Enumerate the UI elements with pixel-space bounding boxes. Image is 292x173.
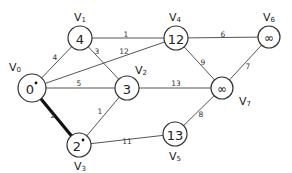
visited-marker-icon [82, 139, 85, 142]
vertex-label-v0: V0 [9, 61, 21, 75]
node-distance-value: ∞ [264, 31, 274, 45]
vertex-label-v2: V2 [135, 64, 147, 78]
vertex-label-v1: V1 [74, 11, 86, 25]
vertex-labels-layer: V0V1V2V3V4V5V6V7 [9, 11, 276, 173]
node-distance-value: 0 [26, 82, 34, 97]
vertex-label-v6: V6 [263, 11, 276, 25]
node-v0: 0 [18, 74, 46, 102]
node-distance-value: 3 [123, 82, 131, 97]
edge-weight-label: 1 [124, 30, 129, 39]
edge-weight-label: 2 [51, 111, 56, 120]
node-v2: 3 [115, 76, 139, 100]
node-distance-value: 13 [167, 128, 184, 143]
edge-weight-label: 7 [246, 62, 251, 71]
node-v7: ∞ [211, 77, 233, 99]
edge-weight-label: 12 [119, 47, 129, 56]
edge-weight-label: 5 [77, 79, 82, 88]
node-distance-value: 4 [76, 32, 84, 47]
node-distance-value: 12 [168, 32, 185, 47]
visited-marker-icon [35, 82, 38, 85]
node-v5: 13 [163, 122, 187, 146]
edge-weight-label: 13 [171, 79, 181, 88]
vertex-label-v4: V4 [169, 11, 182, 25]
edge-weight-label: 8 [199, 110, 204, 119]
vertex-label-v3: V3 [74, 160, 86, 173]
node-v6: ∞ [258, 26, 280, 48]
node-v3: 2 [67, 133, 91, 157]
node-distance-value: 2 [73, 139, 81, 154]
edge-weight-label: 4 [53, 53, 58, 62]
vertex-label-v5: V5 [169, 150, 181, 164]
graph-diagram: 4125213113697118 04321213∞∞ V0V1V2V3V4V5… [0, 0, 292, 172]
edge-weight-label: 3 [95, 47, 100, 56]
node-v1: 4 [68, 26, 92, 50]
node-distance-value: ∞ [217, 82, 227, 96]
edge-weight-label: 11 [122, 137, 132, 146]
edge-weight-label: 6 [221, 30, 226, 39]
vertex-label-v7: V7 [239, 95, 251, 109]
edges-layer [32, 37, 269, 145]
node-v4: 12 [164, 26, 188, 50]
edge-weight-label: 9 [201, 58, 206, 67]
edge-weight-label: 1 [98, 107, 103, 116]
